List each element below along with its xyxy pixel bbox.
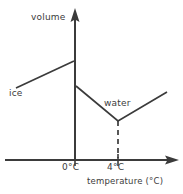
- y-axis: [71, 8, 80, 160]
- y-axis-label: volume: [31, 13, 66, 22]
- volume-vs-temperature-chart: volume ice water 0°C 4°C temperature (°C…: [0, 0, 183, 194]
- ice-label: ice: [9, 89, 23, 98]
- ice-curve: [16, 61, 74, 88]
- x-tick-label-0c: 0°C: [62, 163, 79, 172]
- x-axis: [5, 156, 179, 165]
- chart-canvas: [0, 0, 183, 194]
- x-tick-label-4c: 4°C: [107, 163, 124, 172]
- water-label: water: [104, 99, 131, 108]
- x-axis-label: temperature (°C): [87, 177, 163, 186]
